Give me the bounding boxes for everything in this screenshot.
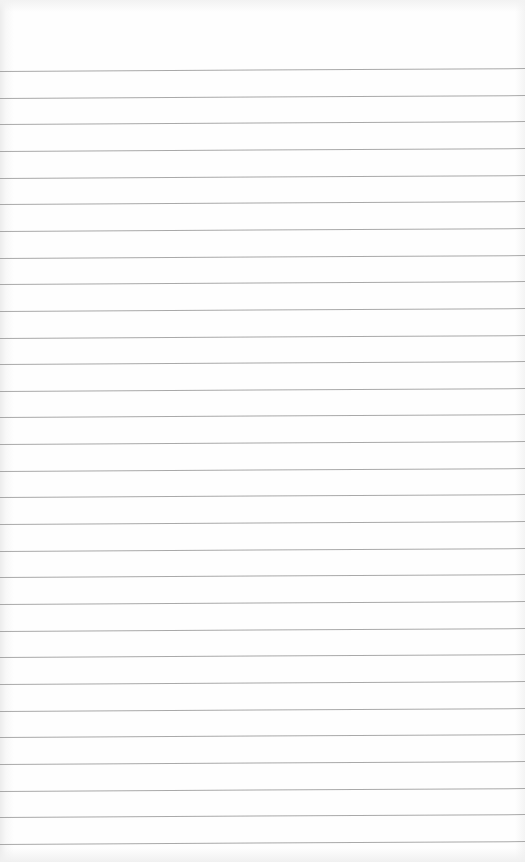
ruled-line <box>0 788 525 792</box>
ruled-line <box>0 255 525 259</box>
ruled-line <box>0 628 525 632</box>
ruled-line <box>0 654 525 658</box>
ruled-line <box>0 814 525 818</box>
ruled-line <box>0 308 525 312</box>
ruled-line <box>0 201 525 205</box>
paper-top-edge <box>0 0 525 12</box>
ruled-line <box>0 761 525 765</box>
ruled-line <box>0 601 525 605</box>
ruled-line <box>0 414 525 418</box>
ruled-line <box>0 228 525 232</box>
lined-paper-sheet <box>0 0 525 862</box>
ruled-line <box>0 121 525 125</box>
ruled-line <box>0 521 525 525</box>
paper-bottom-edge <box>0 848 525 862</box>
ruled-line <box>0 548 525 552</box>
ruled-line <box>0 494 525 498</box>
ruled-line <box>0 441 525 445</box>
ruled-line <box>0 148 525 152</box>
ruled-line <box>0 281 525 285</box>
ruled-line <box>0 175 525 179</box>
ruled-line <box>0 734 525 738</box>
ruled-line <box>0 708 525 712</box>
ruled-line <box>0 841 525 845</box>
ruled-line <box>0 361 525 365</box>
ruled-line <box>0 388 525 392</box>
ruled-line <box>0 574 525 578</box>
ruled-line <box>0 95 525 99</box>
ruled-line <box>0 68 525 72</box>
ruled-line <box>0 335 525 339</box>
ruled-line <box>0 468 525 472</box>
ruled-line <box>0 681 525 685</box>
